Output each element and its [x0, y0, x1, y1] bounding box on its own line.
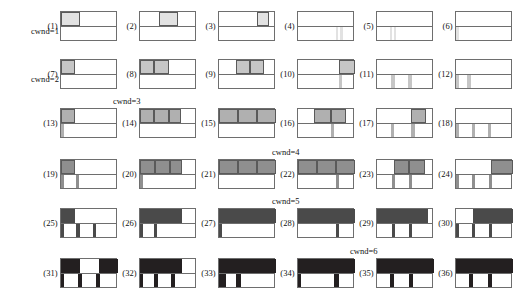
panel-label-29: (29): [359, 218, 376, 228]
ack-bar: [409, 174, 412, 188]
sent-segment-block: [409, 160, 424, 174]
sent-segment-block: [377, 259, 396, 273]
sent-segment-block: [491, 160, 513, 174]
panel-label-18: (18): [438, 118, 455, 128]
panel-31: (31): [60, 258, 117, 288]
panel-label-2: (2): [127, 21, 139, 31]
sent-segment-block: [219, 209, 238, 223]
ack-bar: [469, 273, 474, 287]
panel-midline: [139, 123, 196, 124]
sent-segment-block: [154, 109, 168, 123]
panel-1: (1): [60, 11, 117, 41]
sent-segment-block: [492, 209, 513, 223]
panel-midline: [455, 26, 512, 27]
panel-label-23: (23): [359, 169, 376, 179]
panel-label-26: (26): [122, 218, 139, 228]
ack-bar: [489, 174, 492, 188]
ack-bar: [456, 26, 459, 40]
sent-segment-block: [219, 160, 238, 174]
panel-midline: [376, 273, 433, 274]
panel-midline: [297, 74, 354, 75]
ack-bar: [392, 174, 395, 188]
sent-segment-block: [159, 12, 178, 26]
panel-8: (8): [139, 59, 196, 89]
sent-segment-block: [317, 259, 336, 273]
sent-segment-block: [377, 209, 395, 223]
ack-bar: [488, 123, 491, 137]
panel-22: (22): [297, 159, 354, 189]
sent-segment-block: [339, 60, 355, 74]
sent-segment-block: [395, 209, 412, 223]
panel-midline: [376, 26, 433, 27]
panel-label-25: (25): [43, 218, 60, 228]
sent-segment-block: [412, 209, 428, 223]
sent-segment-block: [238, 160, 257, 174]
panel-label-28: (28): [280, 218, 297, 228]
panel-label-20: (20): [122, 169, 139, 179]
sent-segment-block: [154, 60, 168, 74]
panel-midline: [455, 223, 512, 224]
ack-bar: [140, 223, 143, 237]
ack-bar: [336, 223, 339, 237]
sent-segment-block: [61, 160, 75, 174]
panel-label-36: (36): [438, 268, 455, 278]
panel-label-32: (32): [122, 268, 139, 278]
sent-segment-block: [155, 259, 170, 273]
ack-bar: [140, 174, 143, 188]
panel-midline: [139, 74, 196, 75]
panel-5: (5): [376, 11, 433, 41]
sent-segment-block: [257, 209, 276, 223]
panel-14: (14): [139, 108, 196, 138]
panel-midline: [139, 174, 196, 175]
panel-23: (23): [376, 159, 433, 189]
sent-segment-block: [140, 160, 155, 174]
sent-segment-block: [140, 209, 155, 223]
panel-12: (12): [455, 59, 512, 89]
panel-label-14: (14): [122, 118, 139, 128]
sent-segment-block: [334, 209, 355, 223]
panel-9: (9): [218, 59, 275, 89]
ack-bar: [336, 174, 339, 188]
panel-label-34: (34): [280, 268, 297, 278]
sent-segment-block: [140, 109, 154, 123]
panel-33: (33): [218, 258, 275, 288]
ack-bar: [61, 223, 64, 237]
ack-bar: [298, 273, 301, 287]
sent-segment-block: [257, 109, 276, 123]
sent-segment-block: [494, 259, 513, 273]
ack-bar: [61, 123, 64, 137]
ack-bar: [390, 273, 395, 287]
cwnd-row-label-5: cwnd=5: [272, 196, 299, 206]
panel-label-21: (21): [201, 169, 218, 179]
panel-midline: [60, 123, 117, 124]
panel-30: (30): [455, 208, 512, 238]
panel-label-24: (24): [438, 169, 455, 179]
panel-11: (11): [376, 59, 433, 89]
panel-midline: [218, 223, 275, 224]
ack-bar: [467, 74, 470, 88]
cwnd-row-label-6: cwnd=6: [350, 246, 377, 256]
panel-label-11: (11): [360, 69, 376, 79]
panel-label-10: (10): [280, 69, 297, 79]
panel-18: (18): [455, 108, 512, 138]
sent-segment-block: [396, 259, 415, 273]
panel-label-22: (22): [280, 169, 297, 179]
ack-bar: [456, 174, 459, 188]
sent-segment-block: [317, 160, 336, 174]
sent-segment-block: [155, 160, 170, 174]
sent-segment-block: [238, 259, 257, 273]
panel-24: (24): [455, 159, 512, 189]
ack-bar: [472, 123, 475, 137]
ack-bar: [472, 223, 475, 237]
sent-segment-block: [238, 109, 257, 123]
sent-segment-block: [298, 259, 317, 273]
panel-label-9: (9): [206, 69, 218, 79]
sent-segment-block: [456, 259, 475, 273]
ack-bar: [488, 273, 493, 287]
sent-segment-block: [473, 209, 492, 223]
panel-midline: [218, 273, 275, 274]
panel-midline: [218, 26, 275, 27]
panel-32: (32): [139, 258, 196, 288]
sent-segment-block: [314, 109, 331, 123]
panel-label-5: (5): [364, 21, 376, 31]
